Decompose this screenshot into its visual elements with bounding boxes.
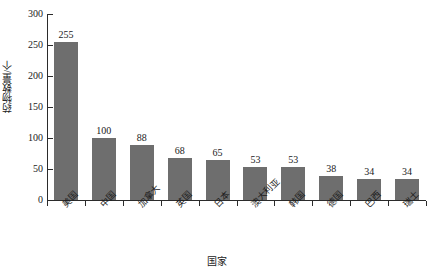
bar-item[interactable]: 255 — [54, 14, 78, 200]
bar-item[interactable]: 100 — [92, 14, 116, 200]
y-tick-label: 250 — [28, 40, 43, 50]
x-tick-mark — [426, 201, 427, 206]
bar-item[interactable]: 88 — [130, 14, 154, 200]
bar-value-label: 100 — [96, 125, 111, 136]
bar-value-label: 38 — [326, 163, 336, 174]
y-tick-mark — [48, 200, 53, 201]
y-tick-label: 100 — [28, 133, 43, 143]
bar[interactable] — [54, 42, 78, 200]
bar-item[interactable]: 34 — [395, 14, 419, 200]
bar-item[interactable]: 68 — [168, 14, 192, 200]
y-tick-label: 300 — [28, 9, 43, 19]
bar-item[interactable]: 65 — [206, 14, 230, 200]
plot-area: 050100150200250300 255100886865535338343… — [47, 14, 426, 200]
bar-value-label: 53 — [250, 154, 260, 165]
bar-item[interactable]: 53 — [281, 14, 305, 200]
bar-item[interactable]: 53 — [243, 14, 267, 200]
y-tick-label: 150 — [28, 102, 43, 112]
bar-series: 2551008868655353383434 — [47, 14, 426, 200]
bar-value-label: 88 — [137, 132, 147, 143]
bar-item[interactable]: 38 — [319, 14, 343, 200]
bar-item[interactable]: 34 — [357, 14, 381, 200]
y-tick-label: 50 — [33, 164, 43, 174]
category-labels: 美国中国加拿大英国日本澳大利亚韩国德国巴西瑞士 — [47, 202, 426, 254]
bar-value-label: 53 — [288, 154, 298, 165]
x-axis-title: 国家 — [0, 256, 433, 267]
bar-chart: 药物数量/个 国家 050100150200250300 25510088686… — [0, 0, 433, 278]
bar-value-label: 68 — [175, 145, 185, 156]
y-tick-label: 200 — [28, 71, 43, 81]
bar-value-label: 65 — [213, 147, 223, 158]
bar-value-label: 255 — [58, 29, 73, 40]
y-tick-label: 0 — [38, 195, 43, 205]
bar-value-label: 34 — [364, 166, 374, 177]
bar-value-label: 34 — [402, 166, 412, 177]
y-axis-title: 药物数量/个 — [2, 60, 16, 113]
